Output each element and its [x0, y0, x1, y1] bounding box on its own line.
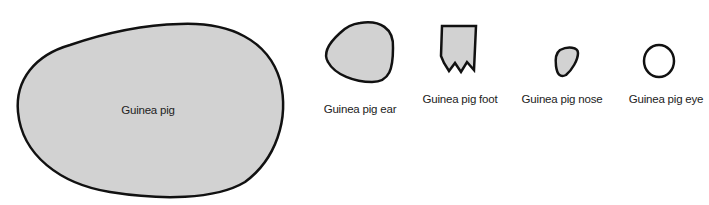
guinea-pig-eye-shape — [644, 45, 674, 77]
guinea-pig-foot-shape — [441, 26, 476, 72]
guinea-pig-nose-shape — [556, 48, 578, 76]
guinea-pig-nose-label: Guinea pig nose — [522, 93, 603, 105]
guinea-pig-ear-label: Guinea pig ear — [324, 103, 397, 115]
guinea-pig-eye-label: Guinea pig eye — [629, 93, 704, 105]
guinea-pig-ear-shape — [326, 22, 393, 82]
guinea-pig-body-label: Guinea pig — [121, 104, 175, 116]
guinea-pig-foot-label: Guinea pig foot — [422, 93, 497, 105]
